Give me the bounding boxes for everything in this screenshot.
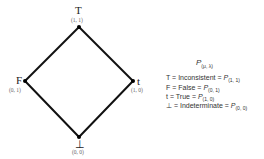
legend-symbol: F (166, 84, 170, 91)
edge-left-bottom (25, 81, 79, 137)
legend-title: P(μ, λ) (196, 58, 213, 69)
vertex-left-dot (23, 79, 27, 83)
edge-right-bottom (79, 81, 133, 137)
legend-row-false: F = False = P(0, 1) (166, 84, 220, 93)
legend-eq: = False = (172, 84, 201, 91)
edge-top-right (79, 27, 133, 81)
vertex-right-coord: (1, 0) (131, 88, 143, 94)
legend-symbol: t (166, 93, 168, 100)
vertex-left-symbol: F (16, 75, 22, 86)
legend-row-true: t = True = P(1, 0) (166, 93, 214, 102)
legend-eq: = True = (170, 93, 196, 100)
legend-sub: (0, 0) (235, 105, 247, 111)
legend-symbol: T (166, 74, 170, 81)
vertex-right-dot (131, 79, 135, 83)
edge-top-left (25, 27, 79, 81)
vertex-top-symbol: T (75, 5, 82, 16)
legend-title-sub: (μ, λ) (201, 63, 213, 69)
vertex-left-coord: (0, 1) (9, 88, 21, 94)
legend-sub: (1, 1) (228, 77, 240, 83)
legend-row-indeterminate: ⊥ = Indeterminate = P(0, 0) (166, 102, 247, 111)
vertex-bottom-coord: (0, 0) (72, 150, 84, 156)
legend-symbol: ⊥ (166, 102, 172, 109)
legend-eq: = Indeterminate = (174, 102, 229, 109)
vertex-top-dot (77, 25, 81, 29)
vertex-right-symbol: t (137, 76, 140, 87)
legend-eq: = Inconsistent = (172, 74, 221, 81)
vertex-top-coord: (1, 1) (71, 18, 83, 24)
legend-row-inconsistent: T = Inconsistent = P(1, 1) (166, 74, 240, 83)
